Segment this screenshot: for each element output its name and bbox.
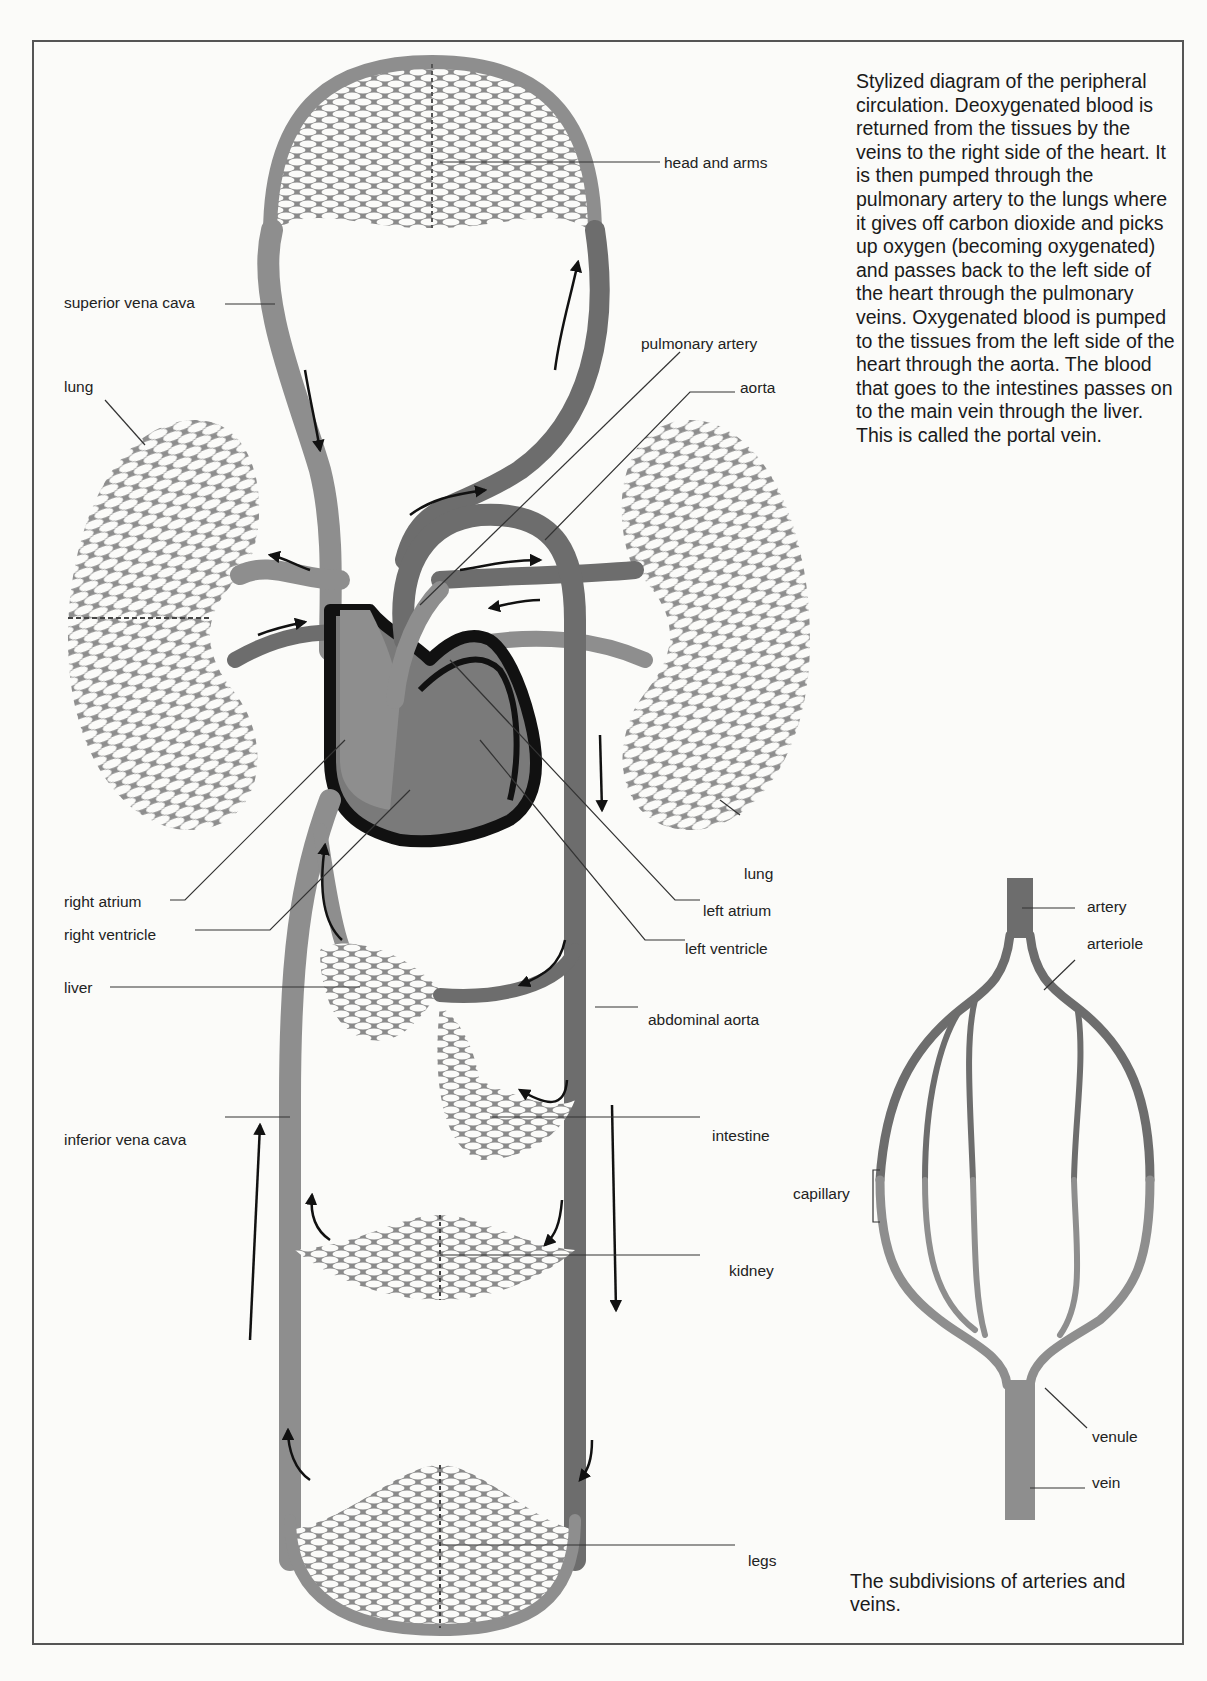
label-artery: artery	[1087, 898, 1127, 916]
label-superior-vena-cava: superior vena cava	[64, 294, 195, 312]
label-lung-left: lung	[64, 378, 93, 396]
label-venule: venule	[1092, 1428, 1138, 1446]
label-arteriole: arteriole	[1087, 935, 1143, 953]
intestine-capillary-bed	[437, 1005, 575, 1160]
label-right-atrium: right atrium	[64, 893, 142, 911]
label-liver: liver	[64, 979, 92, 997]
label-left-ventricle: left ventricle	[685, 940, 768, 958]
label-lung-right: lung	[744, 865, 773, 883]
label-vein: vein	[1092, 1474, 1120, 1492]
label-left-atrium: left atrium	[703, 902, 771, 920]
legs-capillary-bed	[290, 1465, 575, 1630]
label-abdominal-aorta: abdominal aorta	[648, 1011, 759, 1029]
leader-lines	[105, 162, 740, 1545]
label-inferior-vena-cava: inferior vena cava	[64, 1131, 186, 1149]
inferior-vena-cava	[290, 800, 330, 1560]
subdivision-caption: The subdivisions of arteries and veins.	[850, 1570, 1170, 1616]
kidney-capillary-bed	[295, 1215, 575, 1300]
label-intestine: intestine	[712, 1127, 770, 1145]
label-right-ventricle: right ventricle	[64, 926, 156, 944]
label-kidney: kidney	[729, 1262, 774, 1280]
label-aorta: aorta	[740, 379, 775, 397]
head-arms-capillary-bed	[270, 62, 595, 235]
left-lung	[68, 420, 340, 830]
label-capillary: capillary	[793, 1185, 850, 1203]
subdivision-diagram	[873, 878, 1150, 1520]
label-head-and-arms: head and arms	[664, 154, 767, 172]
label-legs: legs	[748, 1552, 776, 1570]
figure-caption: Stylized diagram of the peripheral circu…	[856, 70, 1176, 448]
label-pulmonary-artery: pulmonary artery	[641, 335, 757, 353]
